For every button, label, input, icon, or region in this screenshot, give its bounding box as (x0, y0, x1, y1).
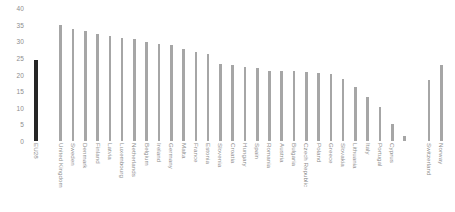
bar-series (30, 8, 448, 141)
y-axis: 4035302520151050 (0, 8, 28, 141)
y-axis-tick: 10 (17, 104, 24, 111)
x-axis-label-text: Latvia (107, 143, 113, 160)
bar[interactable] (330, 74, 333, 141)
bar-slot[interactable] (386, 8, 398, 141)
bar[interactable] (195, 52, 198, 141)
x-axis-label: Austria (276, 143, 288, 209)
bar-slot[interactable] (337, 8, 349, 141)
bar-slot[interactable] (263, 8, 275, 141)
y-axis-tick: 5 (20, 121, 24, 128)
bar[interactable] (231, 65, 234, 141)
x-axis-label-text: Finland (94, 143, 100, 164)
bar[interactable] (428, 80, 431, 141)
x-axis-label-text: Slovakia (340, 143, 346, 167)
x-axis-label-text: Romania (266, 143, 272, 168)
bar-slot[interactable] (79, 8, 91, 141)
bar[interactable] (317, 73, 320, 141)
bar-slot[interactable] (67, 8, 79, 141)
x-axis-label (42, 143, 54, 209)
bar-slot[interactable] (288, 8, 300, 141)
bar[interactable] (268, 71, 271, 141)
x-axis-label: Croatia (227, 143, 239, 209)
x-axis-label: Switzerland (423, 143, 435, 209)
bar[interactable] (280, 71, 283, 141)
bar-slot[interactable] (42, 8, 54, 141)
bar[interactable] (34, 60, 37, 141)
x-axis-label-row: EU28United KingdomSwedenDenmarkFinlandLa… (30, 143, 448, 209)
bar[interactable] (133, 39, 136, 141)
bar[interactable] (219, 64, 222, 141)
bar-slot[interactable] (398, 8, 410, 141)
bar-slot[interactable] (276, 8, 288, 141)
bar-slot[interactable] (300, 8, 312, 141)
bar[interactable] (170, 45, 173, 141)
x-axis-label-text: Belgium (144, 143, 150, 166)
x-axis-label-text: Malta (180, 143, 186, 158)
bar[interactable] (84, 31, 87, 141)
bar-slot[interactable] (30, 8, 42, 141)
bar-slot[interactable] (55, 8, 67, 141)
bar[interactable] (96, 34, 99, 141)
x-axis-label-text: Luxembourg (119, 143, 125, 178)
bar-slot[interactable] (362, 8, 374, 141)
bar-slot[interactable] (349, 8, 361, 141)
bar[interactable] (72, 29, 75, 141)
x-axis-label-text: Ireland (156, 143, 162, 162)
y-axis-tick: 25 (17, 54, 24, 61)
bar-slot[interactable] (227, 8, 239, 141)
bar-slot[interactable] (374, 8, 386, 141)
bar[interactable] (366, 97, 369, 141)
bar[interactable] (403, 136, 406, 141)
bar-slot[interactable] (91, 8, 103, 141)
bar-chart: 4035302520151050 EU28United KingdomSwede… (0, 0, 455, 212)
x-axis-label: Norway (435, 143, 447, 209)
bar[interactable] (391, 124, 394, 141)
bar[interactable] (379, 107, 382, 141)
bar[interactable] (244, 67, 247, 141)
bar[interactable] (354, 87, 357, 141)
y-axis-tick: 0 (20, 138, 24, 145)
bar-slot[interactable] (239, 8, 251, 141)
x-axis-label-text: Estonia (205, 143, 211, 164)
bar[interactable] (109, 36, 112, 141)
x-axis-label: Portugal (374, 143, 386, 209)
x-axis-label: Czech Republic (300, 143, 312, 209)
bar-slot[interactable] (153, 8, 165, 141)
bar-slot[interactable] (312, 8, 324, 141)
x-axis-label: Cyprus (386, 143, 398, 209)
x-axis-label-text: Austria (279, 143, 285, 163)
bar[interactable] (342, 79, 345, 141)
bar-slot[interactable] (128, 8, 140, 141)
bar-slot[interactable] (141, 8, 153, 141)
bar-slot[interactable] (423, 8, 435, 141)
x-axis-label-text: Denmark (82, 143, 88, 168)
bar[interactable] (145, 42, 148, 141)
x-axis-label-text: Czech Republic (303, 143, 309, 187)
bar-slot[interactable] (435, 8, 447, 141)
bar[interactable] (207, 54, 210, 141)
x-axis-label-text: Poland (316, 143, 322, 163)
bar[interactable] (293, 71, 296, 141)
bar[interactable] (121, 38, 124, 141)
x-axis-label-text: Slovenia (217, 143, 223, 167)
x-axis-label-text: Greece (328, 143, 334, 164)
bar[interactable] (440, 65, 443, 141)
y-axis-tick: 20 (17, 71, 24, 78)
bar[interactable] (256, 68, 259, 141)
bar-slot[interactable] (411, 8, 423, 141)
bar-slot[interactable] (116, 8, 128, 141)
bar-slot[interactable] (325, 8, 337, 141)
x-axis-label-text: United Kingdom (58, 143, 64, 188)
bar[interactable] (305, 72, 308, 141)
x-axis-label-text: Spain (254, 143, 260, 159)
bar-slot[interactable] (165, 8, 177, 141)
bar-slot[interactable] (251, 8, 263, 141)
bar-slot[interactable] (104, 8, 116, 141)
bar-slot[interactable] (214, 8, 226, 141)
bar-slot[interactable] (190, 8, 202, 141)
bar[interactable] (59, 25, 62, 141)
bar[interactable] (182, 49, 185, 141)
bar-slot[interactable] (177, 8, 189, 141)
bar[interactable] (158, 44, 161, 141)
bar-slot[interactable] (202, 8, 214, 141)
